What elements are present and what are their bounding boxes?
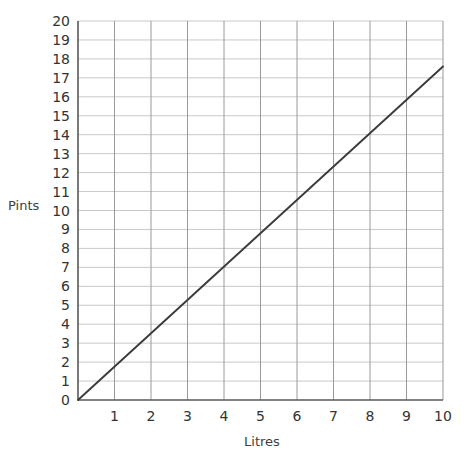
x-tick-label: 10: [434, 408, 452, 424]
y-tick-label: 11: [52, 184, 70, 200]
y-tick-label: 18: [52, 51, 70, 67]
y-tick-label: 8: [61, 240, 70, 256]
x-tick-label: 3: [183, 408, 192, 424]
y-tick-label: 16: [52, 89, 70, 105]
y-tick-label: 14: [52, 127, 70, 143]
x-tick-label: 7: [329, 408, 338, 424]
x-tick-label: 5: [256, 408, 265, 424]
y-tick-label: 4: [61, 316, 70, 332]
x-tick-label: 9: [402, 408, 411, 424]
y-tick-label: 7: [61, 259, 70, 275]
y-tick-label: 2: [61, 354, 70, 370]
x-axis-title: Litres: [244, 434, 280, 449]
x-tick-label: 8: [366, 408, 375, 424]
y-axis-title: Pints: [8, 198, 40, 213]
chart-canvas: 01234567891011121314151617181920 1234567…: [0, 0, 464, 464]
y-tick-label: 0: [61, 392, 70, 408]
x-tick-label: 1: [110, 408, 119, 424]
y-tick-label: 13: [52, 146, 70, 162]
y-tick-label: 19: [52, 32, 70, 48]
y-tick-label: 15: [52, 108, 70, 124]
y-tick-label: 20: [52, 13, 70, 29]
y-tick-label: 17: [52, 70, 70, 86]
y-tick-label: 3: [61, 335, 70, 351]
y-tick-label: 9: [61, 221, 70, 237]
y-tick-label: 12: [52, 165, 70, 181]
x-tick-label: 6: [293, 408, 302, 424]
y-tick-label: 5: [61, 297, 70, 313]
y-tick-label: 1: [61, 373, 70, 389]
x-tick-label: 4: [220, 408, 229, 424]
y-tick-label: 6: [61, 278, 70, 294]
x-tick-label: 2: [147, 408, 156, 424]
conversion-graph: 01234567891011121314151617181920 1234567…: [0, 0, 464, 464]
y-tick-label: 10: [52, 203, 70, 219]
